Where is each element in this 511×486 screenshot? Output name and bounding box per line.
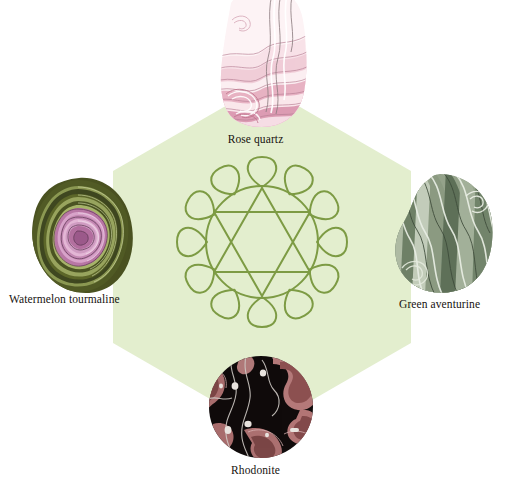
label-rose-quartz: Rose quartz [0, 134, 511, 146]
stone-rhodonite [0, 0, 511, 486]
rhodonite-body [205, 352, 320, 468]
crystal-chakra-diagram: Rose quartz Watermelon tourmaline Green … [0, 0, 511, 486]
label-rhodonite: Rhodonite [0, 465, 511, 477]
label-green-aventurine: Green aventurine [399, 299, 480, 311]
label-watermelon-tourmaline: Watermelon tourmaline [9, 294, 120, 306]
